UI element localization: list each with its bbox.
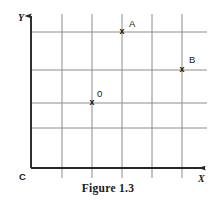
coordinate-grid-diagram: Y X C x A x B x 0 [0,0,216,204]
origin-corner-label: C [19,171,26,182]
point-marker-o: x [89,97,94,107]
figure-caption: Figure 1.3 [0,182,216,194]
point-label-o: 0 [97,88,102,99]
point-marker-a: x [119,26,124,36]
figure-container: Y X C x A x B x 0 Figure 1.3 [0,0,216,204]
y-axis-label: Y [18,12,25,23]
grid-lines-horizontal [31,32,207,128]
point-label-a: A [129,18,136,29]
grid-lines-vertical [62,14,182,178]
point-label-b: B [189,54,195,65]
point-marker-b: x [179,64,184,74]
data-point-o: x 0 [89,88,102,107]
